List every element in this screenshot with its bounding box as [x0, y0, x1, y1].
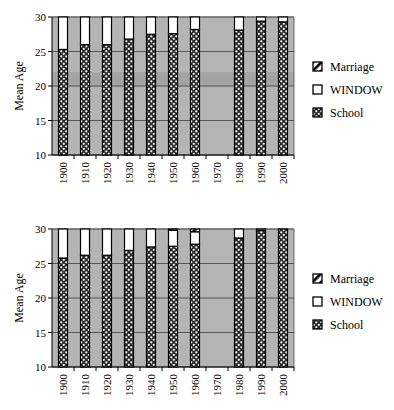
bar-segment-window [103, 17, 112, 45]
x-tick-label: 1940 [145, 162, 157, 185]
legend-swatch-window [313, 85, 322, 94]
bar-segment-school [235, 238, 244, 367]
bar-segment-school [125, 250, 134, 367]
y-tick-label: 15 [35, 115, 47, 127]
legend-swatch-school [313, 320, 322, 329]
bar-1920 [103, 229, 112, 367]
bar-1930 [125, 17, 134, 155]
x-tick-label: 1960 [189, 162, 201, 185]
bar-2000 [279, 229, 288, 367]
bar-1950 [169, 17, 178, 155]
bar-segment-marriage [169, 229, 178, 230]
bar-1900 [59, 229, 68, 367]
bar-segment-window [169, 230, 178, 246]
legend-label: School [330, 106, 364, 120]
bar-segment-school [279, 22, 288, 155]
bar-segment-school [103, 255, 112, 367]
bar-segment-window [191, 232, 200, 244]
x-tick-label: 1990 [255, 162, 267, 185]
bar-1990 [257, 17, 266, 155]
x-tick-label: 1980 [233, 374, 245, 397]
bar-segment-school [147, 247, 156, 367]
bar-1930 [125, 229, 134, 367]
bar-segment-school [81, 45, 90, 155]
x-tick-label: 1930 [123, 374, 135, 397]
x-tick-label: 1900 [57, 162, 69, 185]
y-tick-label: 25 [35, 258, 47, 270]
x-tick-label: 1990 [255, 374, 267, 397]
y-tick-label: 10 [35, 149, 47, 161]
legend-label: Marriage [330, 60, 374, 74]
y-tick-label: 10 [35, 361, 47, 373]
x-tick-label: 1950 [167, 374, 179, 397]
bar-segment-window [125, 17, 134, 39]
legend-label: School [330, 318, 364, 332]
x-tick-label: 1930 [123, 162, 135, 185]
y-tick-label: 30 [35, 11, 47, 23]
bar-segment-window [257, 229, 266, 230]
bar-1910 [81, 229, 90, 367]
legend-item-marriage: Marriage [313, 272, 374, 286]
x-tick-label: 1900 [57, 374, 69, 397]
y-tick-label: 20 [35, 80, 47, 92]
bar-1960 [191, 17, 200, 155]
legend-swatch-school [313, 108, 322, 117]
bar-segment-school [125, 39, 134, 155]
chart-bottom: 1015202530Mean Age1900191019201930194019… [0, 211, 394, 410]
x-tick-label: 2000 [277, 162, 289, 185]
bar-1980 [235, 17, 244, 155]
bar-segment-window [59, 229, 68, 258]
x-tick-label: 1970 [211, 162, 223, 185]
bar-segment-window [147, 17, 156, 34]
bar-segment-window [257, 17, 266, 21]
bar-segment-window [103, 229, 112, 255]
bar-segment-window [279, 17, 288, 22]
x-tick-label: 1920 [101, 162, 113, 185]
bar-segment-school [59, 49, 68, 155]
bar-segment-school [191, 29, 200, 155]
x-tick-label: 1920 [101, 374, 113, 397]
legend-swatch-window [313, 297, 322, 306]
bar-segment-school [257, 230, 266, 367]
bar-segment-school [169, 34, 178, 155]
bar-segment-window [235, 229, 244, 238]
bar-segment-school [59, 258, 68, 367]
chart-top: 1015202530Mean Age1900191019201930194019… [0, 0, 394, 200]
bar-segment-school [81, 255, 90, 367]
bar-segment-school [279, 229, 288, 367]
bar-segment-school [191, 244, 200, 367]
bar-1980 [235, 229, 244, 367]
bar-segment-school [257, 21, 266, 155]
bar-segment-window [125, 229, 134, 250]
bar-segment-window [147, 229, 156, 247]
legend-label: WINDOW [330, 295, 383, 309]
bar-segment-marriage [191, 229, 200, 232]
bar-segment-school [103, 45, 112, 155]
bar-segment-school [147, 34, 156, 155]
y-axis-label: Mean Age [12, 61, 26, 111]
x-tick-label: 1910 [79, 162, 91, 185]
legend-item-window: WINDOW [313, 83, 383, 97]
y-tick-label: 25 [35, 46, 47, 58]
legend-label: WINDOW [330, 83, 383, 97]
legend-item-school: School [313, 106, 364, 120]
bar-segment-school [235, 30, 244, 155]
x-tick-label: 1960 [189, 374, 201, 397]
bar-1900 [59, 17, 68, 155]
y-tick-label: 15 [35, 327, 47, 339]
bar-1940 [147, 17, 156, 155]
legend-item-school: School [313, 318, 364, 332]
legend-swatch-marriage [313, 62, 322, 71]
legend-item-marriage: Marriage [313, 60, 374, 74]
bar-segment-window [81, 17, 90, 45]
bar-2000 [279, 17, 288, 155]
bar-1910 [81, 17, 90, 155]
legend-item-window: WINDOW [313, 295, 383, 309]
x-tick-label: 1970 [211, 374, 223, 397]
bar-segment-window [235, 17, 244, 30]
bar-segment-window [59, 17, 68, 49]
bar-segment-school [169, 246, 178, 367]
bar-1960 [191, 229, 200, 367]
bar-segment-window [81, 229, 90, 255]
bar-segment-window [169, 17, 178, 34]
